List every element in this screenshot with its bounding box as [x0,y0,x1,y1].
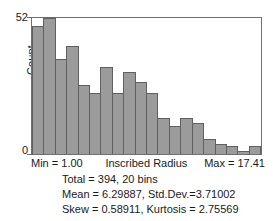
x-axis-max-label: Max = 17.41 [204,157,265,169]
plot-area [31,17,262,155]
x-axis-title: Inscribed Radius [105,157,187,169]
histogram-panel: 52 0 Count Min = 1.00 Inscribed Radius M… [0,0,273,221]
histogram-bars [32,18,261,154]
stats-line-mean: Mean = 6.29887, Std.Dev.=3.71002 [62,187,239,202]
stats-line-total: Total = 394, 20 bins [62,172,239,187]
y-axis-tick-top: 52 [2,11,28,23]
x-axis-min-label: Min = 1.00 [31,157,83,169]
histogram-bar [249,146,261,154]
statistics-block: Total = 394, 20 bins Mean = 6.29887, Std… [62,172,239,217]
stats-line-skew: Skew = 0.58911, Kurtosis = 2.75569 [62,202,239,217]
x-axis-caption-row: Min = 1.00 Inscribed Radius Max = 17.41 [29,156,265,170]
y-axis-tick-bottom: 0 [2,144,28,156]
